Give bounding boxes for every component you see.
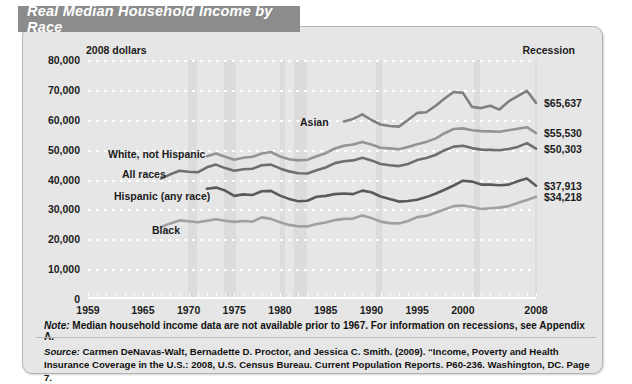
- x-axis-tick: [243, 293, 244, 297]
- x-axis-tick: [326, 293, 327, 297]
- y-axis-tick-label: 60,000: [48, 114, 80, 126]
- x-axis-tick: [527, 293, 528, 297]
- y-axis-tick-label: 50,000: [48, 144, 80, 156]
- figure-page: Real Median Household Income by Race 200…: [0, 0, 632, 384]
- x-axis-tick: [381, 293, 382, 297]
- series-inline-label-all_races: All races: [122, 168, 166, 180]
- x-axis-tick: [298, 293, 299, 297]
- recession-legend-label: Recession: [522, 44, 575, 56]
- page-title: Real Median Household Income by Race: [27, 3, 300, 35]
- x-axis-tick: [234, 293, 235, 297]
- series-inline-label-asian: Asian: [300, 116, 329, 128]
- series-inline-label-hispanic: Hispanic (any race): [114, 190, 210, 202]
- x-axis-tick: [125, 293, 126, 297]
- note-body: Median household income data are not ava…: [44, 320, 585, 342]
- x-axis-tick: [445, 293, 446, 297]
- x-axis-tick: [481, 293, 482, 297]
- x-axis-tick: [335, 293, 336, 297]
- x-axis-tick: [152, 293, 153, 297]
- x-axis-tick: [317, 293, 318, 297]
- x-axis-tick: [106, 293, 107, 297]
- x-axis-tick: [435, 293, 436, 297]
- chart-source: Source: Carmen DeNavas-Walt, Bernadette …: [44, 345, 596, 384]
- x-axis-tick: [161, 293, 162, 297]
- x-axis-tick: [289, 293, 290, 297]
- x-axis-tick: [115, 293, 116, 297]
- x-axis-tick-label: 2008: [524, 304, 547, 316]
- x-axis-tick: [472, 293, 473, 297]
- x-axis-tick: [408, 293, 409, 297]
- x-axis-tick-label: 1970: [177, 304, 200, 316]
- x-axis-tick: [253, 293, 254, 297]
- series-end-label-asian: $65,637: [544, 97, 582, 109]
- x-axis-tick: [88, 293, 89, 297]
- footer-divider: [36, 337, 596, 338]
- x-axis-tick: [225, 293, 226, 297]
- series-end-label-white_not_hispanic: $55,530: [544, 127, 582, 139]
- x-axis-tick: [454, 293, 455, 297]
- x-axis-tick: [518, 293, 519, 297]
- x-axis-tick-label: 2000: [451, 304, 474, 316]
- chart-note: Note: Median household income data are n…: [44, 320, 594, 342]
- x-axis-tick: [170, 293, 171, 297]
- x-axis-tick: [390, 293, 391, 297]
- x-axis-tick: [216, 293, 217, 297]
- y-axis-tick-label: 40,000: [48, 174, 80, 186]
- x-axis-tick: [198, 293, 199, 297]
- y-axis-units-label: 2008 dollars: [86, 44, 147, 56]
- x-axis-tick-label: 1985: [314, 304, 337, 316]
- y-axis-tick-label: 20,000: [48, 233, 80, 245]
- x-axis-tick-label: 1965: [131, 304, 154, 316]
- x-axis-tick: [97, 293, 98, 297]
- x-axis-tick: [179, 293, 180, 297]
- x-axis-tick: [143, 293, 144, 297]
- x-axis-tick: [344, 293, 345, 297]
- x-axis-tick: [262, 293, 263, 297]
- x-axis-tick: [417, 293, 418, 297]
- x-axis-tick: [189, 293, 190, 297]
- x-axis-tick-label: 1959: [76, 304, 99, 316]
- x-axis-tick: [207, 293, 208, 297]
- x-axis-tick: [134, 293, 135, 297]
- series-end-label-black: $34,218: [544, 191, 582, 203]
- x-axis-tick-label: 1975: [223, 304, 246, 316]
- x-axis-tick: [536, 293, 537, 297]
- x-axis-tick: [399, 293, 400, 297]
- x-axis-tick: [426, 293, 427, 297]
- y-axis-tick-label: 10,000: [48, 263, 80, 275]
- x-axis-tick-label: 1990: [360, 304, 383, 316]
- x-axis-tick: [463, 293, 464, 297]
- x-axis-tick: [307, 293, 308, 297]
- source-body: Carmen DeNavas-Walt, Bernadette D. Proct…: [44, 346, 590, 383]
- y-axis-tick-label: 30,000: [48, 203, 80, 215]
- y-axis-tick-label: 70,000: [48, 84, 80, 96]
- series-end-label-all_races: $50,303: [544, 143, 582, 155]
- x-axis-tick: [490, 293, 491, 297]
- x-axis-tick-label: 1995: [405, 304, 428, 316]
- x-axis-tick: [509, 293, 510, 297]
- source-prefix: Source:: [44, 346, 80, 357]
- x-axis-tick-label: 1980: [268, 304, 291, 316]
- x-axis-tick: [362, 293, 363, 297]
- x-axis-tick: [499, 293, 500, 297]
- chart-title-banner: Real Median Household Income by Race: [18, 6, 300, 32]
- series-inline-label-white_not_hispanic: White, not Hispanic: [108, 148, 205, 160]
- x-axis-tick: [271, 293, 272, 297]
- x-axis-tick: [371, 293, 372, 297]
- note-prefix: Note:: [44, 320, 70, 331]
- x-axis-tick: [280, 293, 281, 297]
- series-inline-label-black: Black: [152, 224, 180, 236]
- y-axis-tick-label: 80,000: [48, 54, 80, 66]
- x-axis-tick: [353, 293, 354, 297]
